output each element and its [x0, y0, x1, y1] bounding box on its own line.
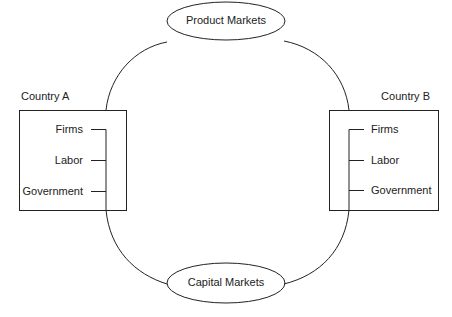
connector-b-product — [284, 41, 349, 110]
product-markets-label: Product Markets — [167, 14, 285, 27]
country-b-labor: Labor — [371, 154, 399, 167]
country-b-government: Government — [371, 184, 432, 197]
connector-a-product — [106, 42, 167, 110]
country-b-title: Country B — [360, 90, 430, 103]
connector-b-capital — [284, 210, 349, 284]
connector-a-capital — [106, 210, 167, 284]
country-a-labor: Labor — [20, 154, 83, 167]
country-a-government: Government — [20, 185, 83, 198]
country-b-firms: Firms — [371, 123, 399, 136]
country-a-title: Country A — [21, 90, 69, 103]
country-a-firms: Firms — [20, 123, 83, 136]
capital-markets-label: Capital Markets — [167, 276, 285, 289]
